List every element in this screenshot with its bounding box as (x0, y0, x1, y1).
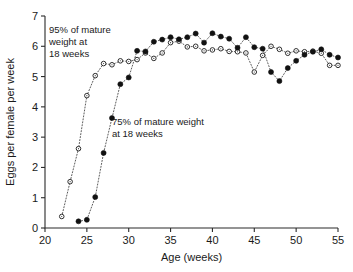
data-point-open-center (204, 50, 205, 51)
data-point-open-center (120, 60, 121, 61)
data-point-open-center (170, 42, 171, 43)
data-point-open-center (78, 148, 79, 149)
data-point-filled (168, 35, 173, 40)
data-point-open-center (229, 51, 230, 52)
data-point-filled (101, 150, 106, 155)
data-point-filled (310, 49, 315, 54)
data-point-open-center (270, 46, 271, 47)
data-point-filled (185, 35, 190, 40)
data-point-filled (93, 195, 98, 200)
data-point-filled (294, 58, 299, 63)
x-tick-label: 35 (164, 234, 176, 246)
scatter-plot: 012345672025303540455055Age (weeks)Eggs … (0, 0, 353, 272)
y-tick-label: 5 (32, 71, 38, 83)
data-point-open-center (329, 65, 330, 66)
annotation-95-percent-line: 95% of mature (49, 24, 111, 35)
data-point-filled (327, 52, 332, 57)
annotation-75-percent-line: at 18 weeks (112, 128, 163, 139)
data-point-filled (336, 55, 341, 60)
data-point-filled (302, 52, 307, 57)
x-tick-label: 20 (39, 234, 51, 246)
data-point-filled (243, 35, 248, 40)
series-line-0 (62, 41, 338, 216)
data-point-open-center (245, 52, 246, 53)
data-point-filled (143, 49, 148, 54)
data-point-filled (160, 37, 165, 42)
x-tick-label: 45 (248, 234, 260, 246)
annotation-75-percent-line: 75% of mature weight (112, 116, 204, 127)
y-tick-label: 2 (32, 161, 38, 173)
x-tick-label: 55 (332, 234, 344, 246)
data-point-open-center (111, 64, 112, 65)
data-point-filled (118, 82, 123, 87)
data-point-filled (176, 37, 181, 42)
data-point-open-center (296, 50, 297, 51)
data-point-filled (193, 31, 198, 36)
y-tick-label: 0 (32, 222, 38, 234)
x-tick-label: 30 (123, 234, 135, 246)
data-point-filled (76, 219, 81, 224)
x-axis-title: Age (weeks) (161, 251, 222, 263)
y-tick-label: 4 (32, 101, 38, 113)
data-point-open-center (103, 63, 104, 64)
y-tick-label: 7 (32, 10, 38, 22)
x-tick-label: 40 (206, 234, 218, 246)
data-point-filled (319, 47, 324, 52)
data-point-filled (269, 70, 274, 75)
annotation-95-percent-line: weight at (48, 36, 87, 47)
data-point-open-center (86, 95, 87, 96)
data-point-open-center (61, 216, 62, 217)
data-point-filled (218, 34, 223, 39)
data-point-open-center (195, 46, 196, 47)
annotation-95-percent-line: 18 weeks (49, 48, 89, 59)
data-point-filled (277, 79, 282, 84)
data-point-open-center (162, 52, 163, 53)
y-tick-label: 1 (32, 192, 38, 204)
chart-figure: 012345672025303540455055Age (weeks)Eggs … (0, 0, 353, 272)
data-point-filled (84, 217, 89, 222)
y-tick-label: 6 (32, 40, 38, 52)
data-point-open-center (137, 59, 138, 60)
y-tick-label: 3 (32, 131, 38, 143)
data-point-filled (202, 40, 207, 45)
data-point-open-center (187, 46, 188, 47)
data-point-open-center (254, 71, 255, 72)
data-point-open-center (321, 53, 322, 54)
data-point-filled (135, 48, 140, 53)
y-axis-title: Eggs per female per week (4, 58, 16, 186)
data-point-filled (210, 31, 215, 36)
data-point-open-center (153, 58, 154, 59)
data-point-open-center (220, 48, 221, 49)
data-point-open-center (287, 53, 288, 54)
data-point-filled (252, 45, 257, 50)
data-point-open-center (237, 51, 238, 52)
data-point-filled (126, 75, 131, 80)
data-point-filled (260, 46, 265, 51)
x-tick-label: 25 (81, 234, 93, 246)
data-point-open-center (262, 55, 263, 56)
data-point-open-center (337, 65, 338, 66)
data-point-open-center (95, 75, 96, 76)
data-point-open-center (279, 49, 280, 50)
data-point-filled (227, 36, 232, 41)
data-point-open-center (212, 49, 213, 50)
data-point-filled (235, 45, 240, 50)
x-tick-label: 50 (290, 234, 302, 246)
data-point-open-center (128, 61, 129, 62)
data-point-filled (285, 66, 290, 71)
data-point-filled (151, 39, 156, 44)
data-point-open-center (70, 181, 71, 182)
